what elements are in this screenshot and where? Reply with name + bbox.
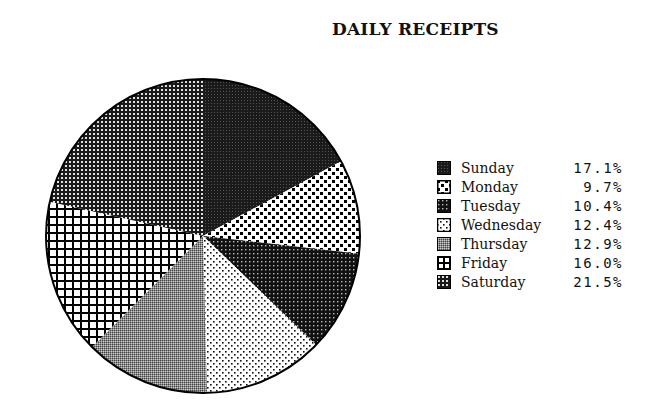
legend: Sunday 17.1% Monday 9.7% Tuesday 10.4% W…: [437, 159, 637, 292]
legend-item: Friday 16.0%: [437, 254, 637, 273]
legend-item: Saturday 21.5%: [437, 273, 637, 292]
legend-label: Sunday: [461, 159, 514, 177]
legend-swatch-monday: [437, 180, 451, 194]
legend-value: 16.0%: [573, 254, 623, 272]
legend-label: Saturday: [461, 273, 526, 291]
legend-label: Thursday: [461, 235, 527, 253]
legend-value: 10.4%: [573, 197, 623, 215]
legend-value: 21.5%: [573, 273, 623, 291]
legend-value: 12.4%: [573, 216, 623, 234]
legend-item: Monday 9.7%: [437, 178, 637, 197]
legend-label: Tuesday: [461, 197, 520, 215]
pie-slices: [46, 79, 360, 393]
legend-swatch-sunday: [437, 161, 451, 175]
legend-value: 12.9%: [573, 235, 623, 253]
legend-swatch-friday: [437, 256, 451, 270]
legend-value: 9.7%: [583, 178, 623, 196]
legend-item: Wednesday 12.4%: [437, 216, 637, 235]
legend-swatch-wednesday: [437, 218, 451, 232]
legend-label: Friday: [461, 254, 507, 272]
legend-item: Sunday 17.1%: [437, 159, 637, 178]
legend-swatch-saturday: [437, 275, 451, 289]
legend-label: Wednesday: [461, 216, 541, 234]
legend-swatch-thursday: [437, 237, 451, 251]
legend-swatch-tuesday: [437, 199, 451, 213]
legend-item: Thursday 12.9%: [437, 235, 637, 254]
legend-label: Monday: [461, 178, 518, 196]
legend-item: Tuesday 10.4%: [437, 197, 637, 216]
legend-value: 17.1%: [573, 159, 623, 177]
